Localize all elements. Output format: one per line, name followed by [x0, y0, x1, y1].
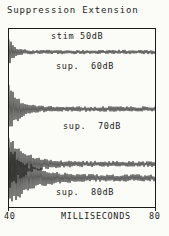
waveform-plot	[9, 29, 155, 207]
plot-frame: stim 50dB sup. 60dB sup. 70dB sup. 80dB	[8, 28, 156, 208]
x-axis-max-label: 80	[149, 211, 161, 221]
x-axis-min-label: 40	[4, 211, 16, 221]
trace-label-sup-60db: sup. 60dB	[56, 62, 114, 70]
trace-label-stim-50db: stim 50dB	[51, 32, 103, 40]
page-title: Suppression Extension	[7, 5, 139, 15]
x-axis-title: MILLISECONDS	[61, 211, 131, 221]
scanned-figure: Suppression Extension stim 50dB sup. 60d…	[0, 0, 169, 236]
trace-label-sup-80db: sup. 80dB	[56, 188, 114, 196]
trace-label-sup-70db: sup. 70dB	[63, 122, 121, 130]
waveform-trace	[9, 40, 155, 64]
